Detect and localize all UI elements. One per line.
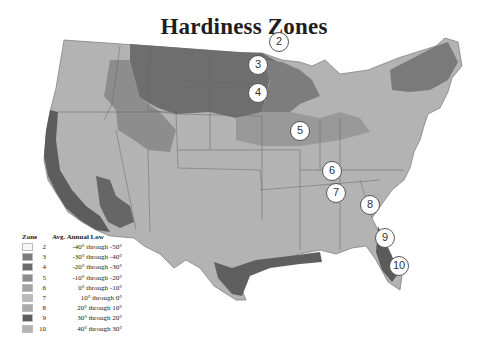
legend-row: 5-10° through -20° <box>22 273 122 283</box>
legend-range: 30° through 20° <box>52 314 122 322</box>
legend-zone: 2 <box>36 243 46 251</box>
zone-marker-8: 8 <box>360 195 380 215</box>
legend-swatch <box>22 253 33 261</box>
legend-range: 10° through 0° <box>52 294 122 302</box>
legend-row: 710° through 0° <box>22 293 122 303</box>
legend-zone-header: Zone <box>22 233 52 241</box>
legend-row: 1040° through 30° <box>22 324 122 334</box>
legend-swatch <box>22 314 33 322</box>
legend: Zone Avg. Annual Low 2-40° through -50°3… <box>22 233 122 334</box>
legend-zone: 10 <box>36 325 46 333</box>
legend-zone: 5 <box>36 274 46 282</box>
legend-swatch <box>22 263 33 271</box>
legend-swatch <box>22 284 33 292</box>
legend-zone: 3 <box>36 253 46 261</box>
legend-range: -20° through -30° <box>52 263 122 271</box>
legend-row: 60° through -10° <box>22 283 122 293</box>
legend-zone: 6 <box>36 284 46 292</box>
legend-zone: 9 <box>36 314 46 322</box>
zone-marker-7: 7 <box>326 183 346 203</box>
legend-swatch <box>22 304 33 312</box>
legend-row: 4-20° through -30° <box>22 262 122 272</box>
legend-swatch <box>22 325 33 333</box>
zone-marker-10: 10 <box>389 256 409 276</box>
zone-marker-6: 6 <box>322 161 342 181</box>
legend-range: -30° through -40° <box>52 253 122 261</box>
zone-marker-9: 9 <box>375 228 395 248</box>
legend-row: 3-30° through -40° <box>22 252 122 262</box>
zone-marker-2: 2 <box>269 32 289 52</box>
legend-row: 930° through 20° <box>22 313 122 323</box>
legend-swatch <box>22 243 33 251</box>
legend-range-header: Avg. Annual Low <box>52 233 104 241</box>
zone-marker-5: 5 <box>290 121 310 141</box>
legend-zone: 8 <box>36 304 46 312</box>
legend-swatch <box>22 294 33 302</box>
legend-range: -40° through -50° <box>52 243 122 251</box>
legend-range: 20° through 10° <box>52 304 122 312</box>
legend-swatch <box>22 274 33 282</box>
legend-range: 40° through 30° <box>52 325 122 333</box>
zone-marker-4: 4 <box>248 83 268 103</box>
zone-marker-3: 3 <box>248 55 268 75</box>
legend-zone: 4 <box>36 263 46 271</box>
legend-zone: 7 <box>36 294 46 302</box>
legend-range: 0° through -10° <box>52 284 122 292</box>
legend-row: 2-40° through -50° <box>22 242 122 252</box>
legend-row: 820° through 10° <box>22 303 122 313</box>
legend-range: -10° through -20° <box>52 274 122 282</box>
